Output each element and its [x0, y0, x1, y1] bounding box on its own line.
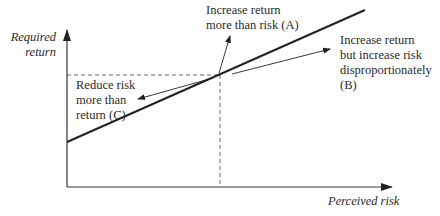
annotation-b-line2: but increase risk	[340, 48, 432, 63]
annotation-c: Reduce risk more than return (C)	[76, 78, 135, 123]
y-axis-label-line1: Required	[2, 30, 56, 45]
annotation-c-line3: return (C)	[76, 108, 135, 123]
annotation-a-line1: Increase return	[206, 3, 299, 18]
annotation-b-line3: disproportionately	[340, 63, 432, 78]
annotation-b: Increase return but increase risk dispro…	[340, 33, 432, 93]
annotation-a-line2: more than risk (A)	[206, 18, 299, 33]
annotation-a: Increase return more than risk (A)	[206, 3, 299, 33]
y-axis-label-line2: return	[2, 45, 56, 60]
x-axis-label: Perceived risk	[328, 194, 399, 209]
arrow-a	[219, 36, 230, 73]
annotation-b-line1: Increase return	[340, 33, 432, 48]
annotation-c-line2: more than	[76, 93, 135, 108]
y-axis-label: Required return	[2, 30, 56, 60]
annotation-b-line4: (B)	[340, 78, 432, 93]
annotation-c-line1: Reduce risk	[76, 78, 135, 93]
arrow-c	[138, 78, 213, 99]
